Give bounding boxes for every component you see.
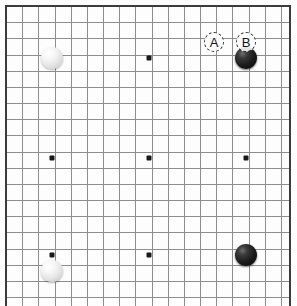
grid-line-vertical bbox=[168, 6, 169, 306]
grid-line-vertical bbox=[22, 6, 23, 306]
grid-line-horizontal bbox=[6, 103, 289, 104]
stone-white-bottom-left bbox=[41, 260, 63, 282]
candidate-move-b-label: B bbox=[242, 36, 251, 49]
grid-line-horizontal bbox=[6, 135, 289, 136]
grid-line-vertical bbox=[87, 6, 88, 306]
grid-line-horizontal bbox=[6, 71, 289, 72]
grid-line-vertical bbox=[103, 6, 104, 306]
grid-line-horizontal bbox=[6, 87, 289, 88]
grid-line-horizontal bbox=[6, 232, 289, 233]
go-board[interactable]: AB bbox=[0, 0, 297, 306]
grid-line-horizontal bbox=[6, 152, 289, 153]
hoshi-center bbox=[147, 156, 152, 161]
grid-line-vertical bbox=[232, 6, 233, 306]
stone-white-top-left bbox=[41, 47, 63, 69]
grid-line-vertical bbox=[265, 6, 266, 306]
grid-line-horizontal bbox=[6, 119, 289, 120]
grid-line-vertical bbox=[200, 6, 201, 306]
grid-line-horizontal bbox=[6, 200, 289, 201]
stone-black-bottom-right bbox=[235, 244, 257, 266]
candidate-move-b[interactable]: B bbox=[236, 32, 256, 52]
grid-line-vertical bbox=[184, 6, 185, 306]
candidate-move-a[interactable]: A bbox=[204, 32, 224, 52]
board-edge-left bbox=[5, 5, 7, 306]
hoshi-bottom-left bbox=[50, 253, 55, 258]
hoshi-middle-right bbox=[244, 156, 249, 161]
grid-line-horizontal bbox=[6, 216, 289, 217]
grid-line-vertical bbox=[152, 6, 153, 306]
grid-line-horizontal bbox=[6, 168, 289, 169]
grid-line-vertical bbox=[281, 6, 282, 306]
grid-line-vertical bbox=[119, 6, 120, 306]
board-edge-top bbox=[5, 5, 291, 7]
grid-line-horizontal bbox=[6, 184, 289, 185]
grid-line-vertical bbox=[135, 6, 136, 306]
board-edge-right bbox=[289, 5, 291, 306]
hoshi-bottom-middle bbox=[147, 253, 152, 258]
grid-line-horizontal bbox=[6, 22, 289, 23]
grid-line-vertical bbox=[71, 6, 72, 306]
hoshi-middle-left bbox=[50, 156, 55, 161]
grid-line-vertical bbox=[38, 6, 39, 306]
grid-line-horizontal bbox=[6, 297, 289, 298]
candidate-move-a-label: A bbox=[210, 36, 219, 49]
hoshi-top-middle bbox=[147, 56, 152, 61]
